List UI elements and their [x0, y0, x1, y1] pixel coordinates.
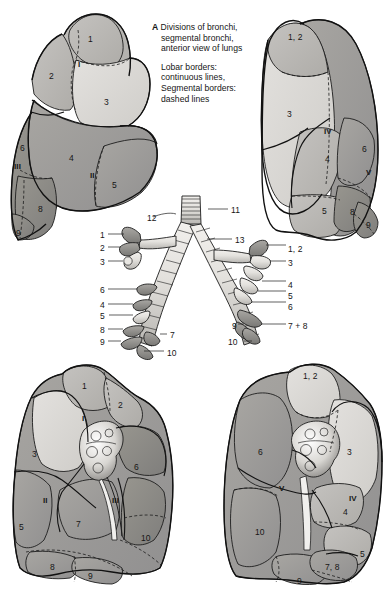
segment-label-bronchial-tree-3: 1 [100, 231, 105, 240]
segment-label-bronchial-tree-16: 5 [288, 292, 293, 301]
caption-text-3: anterior view of lungs [152, 43, 282, 54]
segment-label-bronchial-tree-9: 8 [100, 326, 105, 335]
segment-label-bronchial-tree-12: 10 [167, 349, 177, 358]
lobe-label-lower-left-lung-5: II [43, 497, 48, 505]
segment-label-bronchial-tree-20: 10 [228, 338, 238, 347]
segment-label-upper-right-lung-0: 1, 2 [288, 33, 303, 42]
plate-caption: A Divisions of bronchi, segmental bronch… [152, 22, 282, 104]
segment-label-lower-right-lung-5: 4 [343, 508, 348, 517]
segment-label-bronchial-tree-4: 2 [100, 244, 105, 253]
lobe-label-upper-left-lung-2: I [78, 61, 80, 69]
plate-letter: A [152, 22, 158, 32]
segment-label-lower-right-lung-7: 5 [360, 550, 365, 559]
segment-label-upper-left-lung-9: 8 [38, 205, 43, 214]
legend-line-1: Lobar borders: [152, 62, 282, 73]
segment-label-upper-right-lung-4: 6 [362, 145, 367, 154]
figure-bronchial-tree [108, 196, 286, 360]
lobe-label-lower-left-lung-6: III [112, 497, 119, 505]
segment-label-upper-right-lung-1: 3 [287, 110, 292, 119]
segment-label-upper-right-lung-7: 8 [350, 208, 355, 217]
segment-label-lower-right-lung-6: 10 [255, 528, 265, 537]
segment-label-upper-right-lung-8: 9 [366, 221, 371, 230]
segment-label-lower-right-lung-1: 6 [258, 448, 263, 457]
segment-label-lower-left-lung-4: 6 [134, 463, 139, 472]
caption-text-1: Divisions of bronchi, [161, 22, 238, 32]
segment-label-lower-left-lung-1: 2 [118, 401, 123, 410]
lobe-label-lower-left-lung-2: I [82, 415, 84, 423]
lobe-label-upper-right-lung-5: V [366, 169, 371, 177]
segment-label-bronchial-tree-14: 3 [288, 259, 293, 268]
segment-label-upper-left-lung-3: 3 [104, 98, 109, 107]
segment-label-lower-left-lung-0: 1 [82, 382, 87, 391]
lobe-label-lower-right-lung-3: V [279, 485, 284, 493]
segment-label-lower-left-lung-10: 8 [50, 563, 55, 572]
segment-label-lower-left-lung-11: 9 [88, 572, 93, 581]
segment-label-lower-right-lung-9: 9 [297, 577, 302, 586]
segment-label-upper-left-lung-10: 9 [16, 229, 21, 238]
segment-label-lower-right-lung-8: 7, 8 [325, 563, 340, 572]
legend-line-2: continuous lines, [152, 72, 282, 83]
lobe-label-lower-right-lung-4: IV [349, 495, 357, 503]
segment-label-bronchial-tree-10: 9 [100, 338, 105, 347]
segment-label-bronchial-tree-17: 6 [288, 303, 293, 312]
segment-label-bronchial-tree-8: 5 [100, 312, 105, 321]
caption-text-2: segmental bronchi, [152, 33, 282, 44]
segment-label-lower-right-lung-2: 3 [347, 448, 352, 457]
figure-lower-right-lung [224, 364, 382, 584]
anatomy-plate: A Divisions of bronchi, segmental bronch… [0, 0, 391, 603]
segment-label-bronchial-tree-19: 9 [232, 322, 237, 331]
segment-label-lower-left-lung-3: 3 [32, 450, 37, 459]
segment-label-upper-left-lung-7: 6 [20, 144, 25, 153]
segment-label-lower-left-lung-7: 5 [19, 523, 24, 532]
segment-label-lower-right-lung-0: 1, 2 [303, 372, 318, 381]
segment-label-upper-right-lung-6: 5 [322, 207, 327, 216]
segment-label-bronchial-tree-11: 7 [170, 331, 175, 340]
lobe-label-upper-left-lung-6: II [90, 172, 95, 180]
segment-label-upper-left-lung-5: 5 [112, 181, 117, 190]
segment-label-bronchial-tree-18: 7 + 8 [288, 322, 308, 331]
segment-label-bronchial-tree-13: 1, 2 [288, 245, 303, 254]
lobe-label-upper-right-lung-2: IV [324, 128, 332, 136]
segment-label-upper-right-lung-3: 4 [325, 155, 330, 164]
segment-label-lower-left-lung-8: 7 [76, 520, 81, 529]
lobe-label-upper-left-lung-8: III [14, 163, 21, 171]
segment-label-bronchial-tree-15: 4 [288, 281, 293, 290]
figure-upper-left-lung [11, 14, 157, 240]
legend-line-3: Segmental borders: [152, 83, 282, 94]
segment-label-lower-left-lung-9: 10 [141, 534, 151, 543]
segment-label-bronchial-tree-7: 4 [100, 301, 105, 310]
legend-line-4: dashed lines [152, 94, 282, 105]
segment-label-upper-left-lung-0: 1 [88, 35, 93, 44]
segment-label-bronchial-tree-0: 11 [231, 206, 240, 215]
figure-lower-left-lung [13, 365, 173, 584]
segment-label-bronchial-tree-6: 6 [100, 286, 105, 295]
segment-label-bronchial-tree-1: 12 [147, 214, 157, 223]
segment-label-bronchial-tree-5: 3 [100, 258, 105, 267]
segment-label-upper-left-lung-4: 4 [69, 154, 74, 163]
segment-label-upper-left-lung-1: 2 [49, 72, 54, 81]
caption-line-1: A Divisions of bronchi, [152, 22, 282, 33]
segment-label-bronchial-tree-2: 13 [235, 236, 245, 245]
